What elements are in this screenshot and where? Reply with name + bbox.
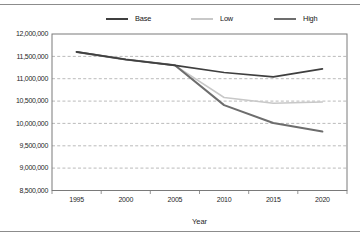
population-projection-line-chart: 12,000,00011,500,00011,000,00010,500,000… [0,0,360,242]
bottom-horizontal-rule [0,231,360,232]
x-tick-label: 2015 [266,196,281,203]
y-tick-label: 9,000,000 [20,164,49,171]
y-tick-label: 12,000,000 [16,30,48,37]
y-tick-label: 9,500,000 [20,142,49,149]
figure-page: Base Low High 12,000,00011,500,00011,000… [0,0,360,242]
x-tick-label: 2000 [118,196,133,203]
x-tick-label: 2010 [217,196,232,203]
series-line-base [77,52,323,77]
series-line-low [77,52,323,103]
series-line-high [77,52,323,132]
y-tick-label: 10,500,000 [16,97,48,104]
y-tick-label: 8,500,000 [20,187,49,194]
plot-area-border [52,34,347,191]
y-tick-label: 10,000,000 [16,120,48,127]
x-axis-title: Year [192,217,208,226]
x-tick-label: 1995 [69,196,84,203]
y-tick-label: 11,000,000 [16,75,48,82]
y-tick-label: 11,500,000 [16,53,48,60]
x-tick-label: 2005 [168,196,183,203]
x-tick-label: 2020 [315,196,330,203]
